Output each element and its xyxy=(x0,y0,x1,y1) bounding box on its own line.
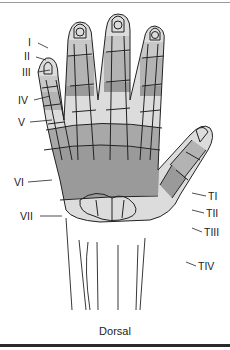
finger-zone-labels: I II III IV V VI VII xyxy=(14,36,33,222)
zone-label-v: V xyxy=(18,116,25,128)
zone-label-ii: II xyxy=(24,50,30,62)
zone-label-vii: VII xyxy=(20,210,33,222)
zone-label-iii: III xyxy=(22,66,31,78)
thumb-zone-labels: TI TII TIII TIV xyxy=(198,190,219,272)
bottom-border xyxy=(0,344,230,347)
zone-label-vi: VI xyxy=(14,176,24,188)
zone-label-ti: TI xyxy=(208,190,217,202)
zone-label-tiv: TIV xyxy=(198,260,214,272)
zone-label-tiii: TIII xyxy=(204,226,219,238)
zone-label-iv: IV xyxy=(18,94,28,106)
zone-label-i: I xyxy=(28,36,31,48)
figure-caption: Dorsal xyxy=(0,325,230,337)
zone-fills xyxy=(0,0,230,320)
forearm xyxy=(66,218,145,310)
dorsal-hand-diagram: I II III IV V VI VII TI TII TIII TIV xyxy=(0,0,230,320)
zone-label-tii: TII xyxy=(206,207,218,219)
